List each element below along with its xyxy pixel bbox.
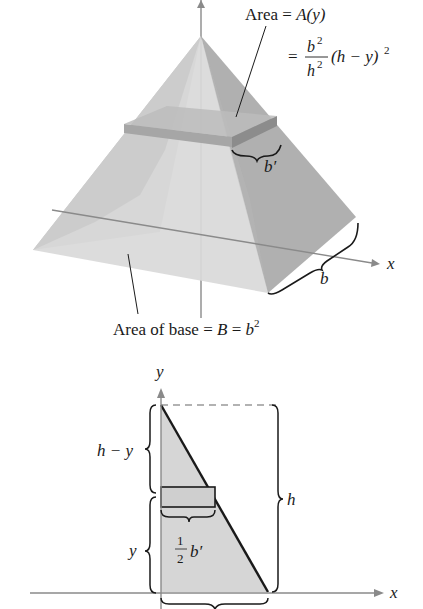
area-label: Area = A(y) (245, 5, 326, 24)
svg-text:=: = (288, 47, 298, 66)
y-axis-2d-arrow-icon (157, 388, 165, 398)
upper-height-brace (145, 405, 156, 493)
svg-text:2: 2 (177, 551, 184, 566)
x-axis-2d-arrow-icon (374, 589, 384, 597)
slab-width-label: b′ (264, 157, 277, 176)
svg-text:(h − y): (h − y) (331, 47, 379, 66)
y-axis-arrow-icon (197, 0, 205, 8)
svg-text:2: 2 (317, 58, 323, 70)
base-width-label: b (320, 269, 329, 288)
lower-height-label: y (127, 541, 137, 560)
x-axis-label-bottom: x (389, 583, 398, 602)
total-height-brace (272, 405, 283, 592)
pyramid-diagram: x Area = A(y) = b 2 h 2 (h − y) 2 b′ b A… (33, 0, 395, 339)
upper-height-label: h − y (97, 441, 133, 460)
lower-height-brace (145, 497, 156, 593)
total-height-label: h (287, 490, 296, 509)
y-axis-label-bottom: y (154, 362, 164, 381)
base-area-label: Area of base = B = b2 (113, 317, 259, 339)
svg-text:2: 2 (384, 44, 390, 56)
svg-text:2: 2 (317, 34, 323, 46)
area-formula: = b 2 h 2 (h − y) 2 (288, 34, 390, 79)
svg-text:b′: b′ (190, 542, 203, 561)
svg-text:h: h (307, 62, 315, 79)
slice-rectangle (161, 487, 215, 507)
x-axis-label-top: x (386, 254, 395, 273)
svg-text:b: b (307, 38, 315, 55)
x-axis-arrow-icon (371, 259, 380, 267)
svg-text:1: 1 (177, 533, 184, 548)
triangle-diagram: y x h − y y h 1 2 b′ (30, 362, 398, 609)
base-half-width-brace (161, 598, 268, 609)
pyramid-volume-figure: x Area = A(y) = b 2 h 2 (h − y) 2 b′ b A… (0, 0, 423, 609)
